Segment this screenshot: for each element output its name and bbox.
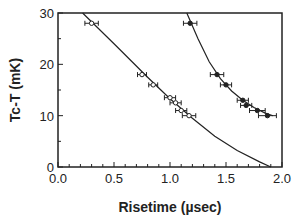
fit-curve [83, 13, 271, 167]
data-point [138, 72, 147, 77]
data-points [85, 21, 277, 118]
x-tick-label: 1.0 [161, 171, 179, 186]
fit-curves [83, 13, 273, 167]
x-tick-label: 1.5 [217, 171, 235, 186]
data-point [164, 95, 175, 100]
data-point [85, 21, 98, 26]
data-point [183, 21, 196, 26]
data-point [170, 100, 181, 105]
data-point [210, 72, 223, 77]
data-point [220, 82, 231, 87]
y-tick-label: 30 [40, 6, 54, 21]
x-tick-label: 2.0 [273, 171, 291, 186]
data-point [241, 103, 252, 108]
data-point [237, 98, 248, 103]
y-tick-label: 10 [40, 109, 54, 124]
data-point [182, 113, 195, 118]
y-tick-label: 0 [47, 160, 54, 175]
y-tick-label: 20 [40, 57, 54, 72]
x-tick-label: 0.5 [105, 171, 123, 186]
data-point [149, 82, 158, 87]
x-axis-label: Risetime (µsec) [119, 199, 222, 215]
y-axis-label: Tc-T (mK) [7, 58, 23, 122]
risetime-chart: 0.00.51.01.52.00102030 Risetime (µsec) T… [0, 0, 307, 219]
data-point [258, 113, 276, 118]
fit-curve [187, 13, 273, 116]
plot-frame [58, 13, 282, 167]
